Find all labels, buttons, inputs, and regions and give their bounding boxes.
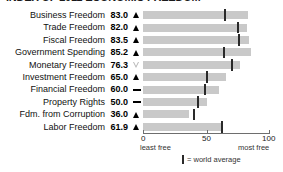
trend-flat-icon xyxy=(131,96,141,108)
component-value: 82.0 xyxy=(106,21,128,33)
world-average-tick xyxy=(237,22,239,34)
value-bar xyxy=(143,61,240,69)
trend-up-icon xyxy=(131,121,141,133)
value-bar xyxy=(143,11,248,19)
chart-row: Fdm. from Corruption36.0 xyxy=(0,108,283,120)
component-value: 83.0 xyxy=(106,9,128,21)
component-value: 50.0 xyxy=(106,96,128,108)
trend-up-icon xyxy=(131,108,141,120)
component-label: Business Freedom xyxy=(0,9,105,21)
world-average-tick xyxy=(224,9,226,21)
component-label: Labor Freedom xyxy=(0,121,105,133)
world-average-tick xyxy=(204,84,206,96)
axis-label-least-free: least free xyxy=(140,143,171,152)
chart-row: Government Spending85.2 xyxy=(0,46,283,58)
world-average-tick xyxy=(223,47,225,59)
chart-row: Fiscal Freedom83.5 xyxy=(0,34,283,46)
plot-area xyxy=(143,108,270,120)
chart-title: INDEX OF 2011 ECONOMIC FREEDOM xyxy=(6,0,200,3)
value-bar xyxy=(143,86,219,94)
axis-tick-label-50: 50 xyxy=(202,134,211,143)
chart-row: Trade Freedom82.0 xyxy=(0,21,283,33)
component-label: Financial Freedom xyxy=(0,83,105,95)
world-average-marker-icon xyxy=(182,155,184,164)
legend: = world average xyxy=(182,155,241,167)
value-bar xyxy=(143,73,226,81)
world-average-tick xyxy=(197,96,199,108)
trend-up-icon xyxy=(131,21,141,33)
world-average-tick xyxy=(238,34,240,46)
component-label: Trade Freedom xyxy=(0,21,105,33)
chart-row: Monetary Freedom76.3 xyxy=(0,59,283,71)
plot-area xyxy=(143,21,270,33)
plot-area xyxy=(143,46,270,58)
value-bar xyxy=(143,123,222,131)
plot-area xyxy=(143,96,270,108)
trend-up-icon xyxy=(131,46,141,58)
value-bar xyxy=(143,110,189,118)
world-average-tick xyxy=(193,109,195,121)
chart-row: Labor Freedom61.9 xyxy=(0,121,283,133)
component-value: 61.9 xyxy=(106,121,128,133)
component-value: 83.5 xyxy=(106,34,128,46)
plot-area xyxy=(143,9,270,21)
component-label: Monetary Freedom xyxy=(0,59,105,71)
plot-area xyxy=(143,71,270,83)
component-label: Fdm. from Corruption xyxy=(0,108,105,120)
world-average-tick xyxy=(221,121,223,133)
component-value: 60.0 xyxy=(106,83,128,95)
world-average-tick xyxy=(206,71,208,83)
trend-down-icon xyxy=(131,59,141,71)
component-label: Government Spending xyxy=(0,46,105,58)
trend-up-icon xyxy=(131,9,141,21)
axis-label-most-free: most free xyxy=(238,143,269,152)
value-bar xyxy=(143,24,247,32)
economic-freedom-chart: INDEX OF 2011 ECONOMIC FREEDOM Business … xyxy=(0,0,283,172)
axis-tick-label-0: 0 xyxy=(141,134,145,143)
component-value: 65.0 xyxy=(106,71,128,83)
component-label: Fiscal Freedom xyxy=(0,34,105,46)
component-label: Investment Freedom xyxy=(0,71,105,83)
chart-row: Property Rights50.0 xyxy=(0,96,283,108)
plot-area xyxy=(143,83,270,95)
component-value: 76.3 xyxy=(106,59,128,71)
trend-up-icon xyxy=(131,34,141,46)
trend-flat-icon xyxy=(131,83,141,95)
chart-row: Business Freedom83.0 xyxy=(0,9,283,21)
plot-area xyxy=(143,59,270,71)
plot-area xyxy=(143,34,270,46)
value-bar xyxy=(143,48,251,56)
chart-row: Financial Freedom60.0 xyxy=(0,83,283,95)
trend-up-icon xyxy=(131,71,141,83)
world-average-tick xyxy=(231,59,233,71)
legend-label: = world average xyxy=(187,155,241,164)
chart-rows: Business Freedom83.0Trade Freedom82.0Fis… xyxy=(0,9,283,133)
component-value: 36.0 xyxy=(106,108,128,120)
axis-tick-label-100: 100 xyxy=(262,134,275,143)
component-label: Property Rights xyxy=(0,96,105,108)
component-value: 85.2 xyxy=(106,46,128,58)
chart-row: Investment Freedom65.0 xyxy=(0,71,283,83)
value-bar xyxy=(143,36,249,44)
